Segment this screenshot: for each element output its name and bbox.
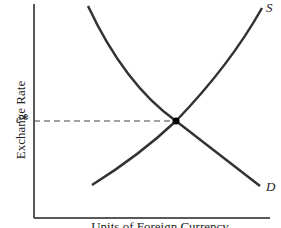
chart-canvas xyxy=(0,0,281,228)
demand-label: D xyxy=(266,179,275,195)
equilibrium-label: e* xyxy=(16,112,27,127)
x-axis-label: Units of Foreign Currency xyxy=(60,219,260,228)
supply-label: S xyxy=(266,0,273,16)
supply-curve xyxy=(92,8,262,185)
demand-curve xyxy=(88,6,260,186)
equilibrium-point xyxy=(173,118,180,125)
